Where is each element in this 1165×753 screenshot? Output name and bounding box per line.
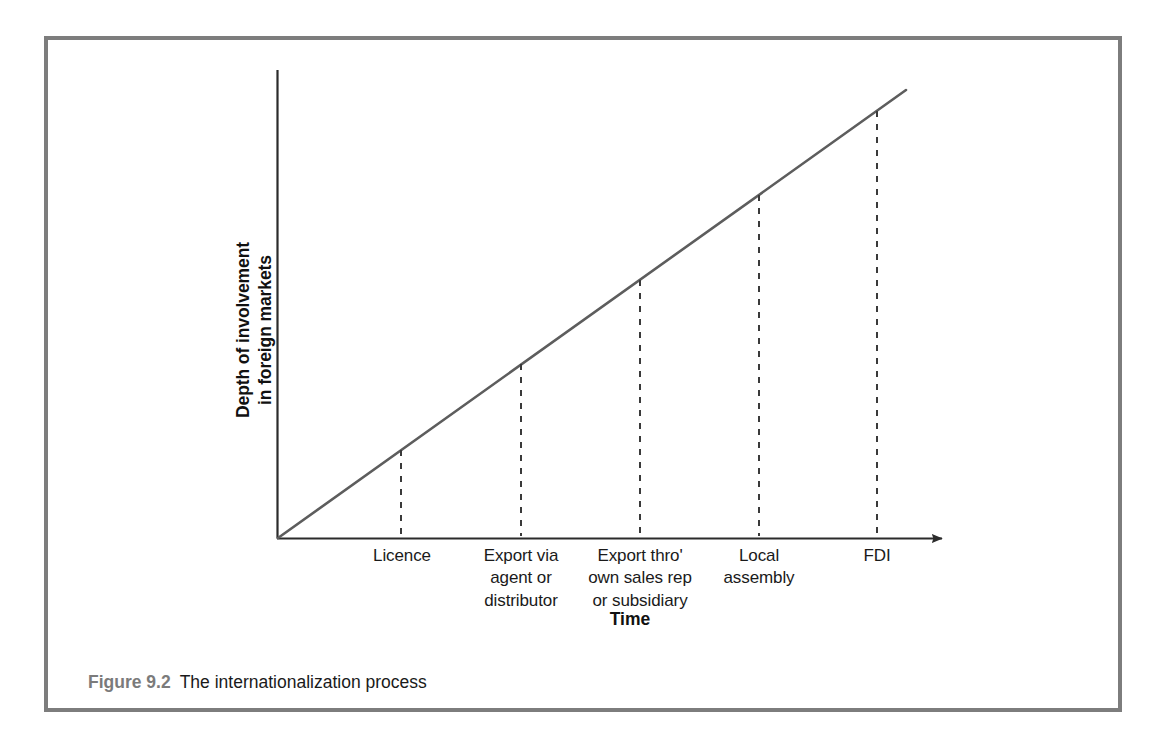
x-tick-label-export-own-sales-rep: Export thro' own sales rep or subsidiary [565,545,715,612]
x-tick-label-licence: Licence [342,545,462,567]
x-tick-label-local-assembly: Local assembly [694,545,824,590]
figure-container: Depth of involvement in foreign markets … [0,0,1165,753]
x-tick-label-fdi: FDI [827,545,927,567]
figure-caption-text: The internationalization process [180,672,427,692]
x-axis-title: Time [560,609,700,630]
figure-caption-number: Figure 9.2 [88,672,171,692]
y-axis-title: Depth of involvement in foreign markets [232,180,276,480]
figure-caption: Figure 9.2The internationalization proce… [88,672,427,693]
